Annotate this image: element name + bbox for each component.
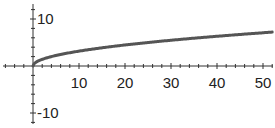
x-tick-label: 50 — [255, 74, 272, 91]
x-tick-labels: 1020304050 — [71, 74, 272, 91]
x-tick-label: 40 — [209, 74, 226, 91]
x-tick-label: 20 — [117, 74, 134, 91]
sqrt-curve — [33, 32, 272, 66]
y-tick-label: 10 — [37, 10, 54, 27]
x-tick-label: 30 — [163, 74, 180, 91]
x-tick-label: 10 — [71, 74, 88, 91]
chart: 1020304050 10-10 — [0, 0, 275, 128]
y-tick-label: -10 — [37, 104, 59, 121]
